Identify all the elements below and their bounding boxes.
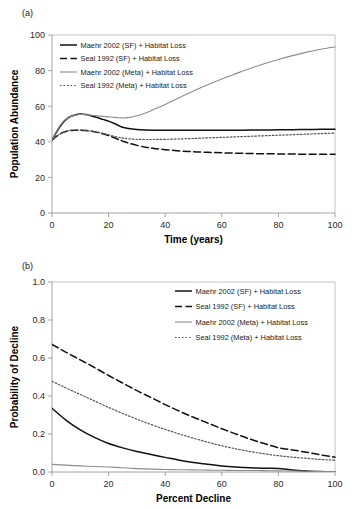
legend-label-seal-sf: Seal 1992 (SF) + Habitat Loss bbox=[81, 54, 181, 63]
series-line bbox=[52, 381, 335, 460]
panel-b-plot: 0204060801000.00.20.40.60.81.0Percent De… bbox=[0, 255, 359, 509]
x-axis-title: Percent Decline bbox=[156, 493, 231, 504]
series-line bbox=[52, 464, 335, 471]
y-tick-label: 40 bbox=[35, 137, 45, 147]
panel-a-population-abundance: (a) 020406080100020406080100Time (years)… bbox=[0, 0, 359, 254]
y-tick-label: 0 bbox=[40, 208, 45, 218]
legend-label-maehr-meta: Maehr 2002 (Meta) + Habitat Loss bbox=[196, 318, 309, 327]
x-tick-label: 60 bbox=[217, 220, 227, 230]
legend-label-seal-meta: Seal 1992 (Meta) + Habitat Loss bbox=[81, 81, 188, 90]
y-tick-label: 0.0 bbox=[32, 467, 45, 477]
x-tick-label: 40 bbox=[160, 479, 170, 489]
x-tick-label: 80 bbox=[273, 220, 283, 230]
panel-a-plot: 020406080100020406080100Time (years)Popu… bbox=[0, 0, 359, 254]
legend-label-maehr-meta: Maehr 2002 (Meta) + Habitat Loss bbox=[81, 68, 194, 77]
x-tick-label: 100 bbox=[327, 479, 342, 489]
x-tick-label: 40 bbox=[160, 220, 170, 230]
y-tick-label: 0.8 bbox=[32, 315, 45, 325]
y-axis-title: Population Abundance bbox=[9, 69, 20, 178]
y-tick-label: 0.2 bbox=[32, 429, 45, 439]
y-tick-label: 0.4 bbox=[32, 391, 45, 401]
x-tick-label: 60 bbox=[217, 479, 227, 489]
legend-label-maehr-sf: Maehr 2002 (SF) + Habitat Loss bbox=[81, 41, 187, 50]
legend-label-seal-meta: Seal 1992 (Meta) + Habitat Loss bbox=[196, 333, 303, 342]
legend-label-maehr-sf: Maehr 2002 (SF) + Habitat Loss bbox=[196, 287, 302, 296]
x-axis-title: Time (years) bbox=[164, 234, 223, 245]
series-line bbox=[52, 130, 335, 140]
y-axis-title: Probability of Decline bbox=[9, 325, 20, 428]
series-line bbox=[52, 130, 335, 154]
x-tick-label: 0 bbox=[49, 479, 54, 489]
panel-b-probability-of-decline: (b) 0204060801000.00.20.40.60.81.0Percen… bbox=[0, 255, 359, 509]
y-tick-label: 20 bbox=[35, 173, 45, 183]
legend-label-seal-sf: Seal 1992 (SF) + Habitat Loss bbox=[196, 302, 296, 311]
x-tick-label: 0 bbox=[49, 220, 54, 230]
y-tick-label: 60 bbox=[35, 102, 45, 112]
x-tick-label: 100 bbox=[327, 220, 342, 230]
y-tick-label: 1.0 bbox=[32, 277, 45, 287]
x-tick-label: 20 bbox=[104, 220, 114, 230]
series-line bbox=[52, 114, 335, 140]
y-tick-label: 100 bbox=[30, 30, 45, 40]
y-tick-label: 80 bbox=[35, 66, 45, 76]
x-tick-label: 20 bbox=[104, 479, 114, 489]
y-tick-label: 0.6 bbox=[32, 353, 45, 363]
x-tick-label: 80 bbox=[273, 479, 283, 489]
